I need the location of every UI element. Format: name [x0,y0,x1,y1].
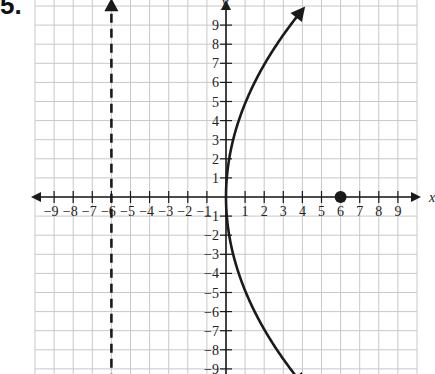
x-tick-label: −8 [63,204,78,219]
parabola-curve [226,15,299,374]
y-tick-label: 3 [212,133,219,148]
x-tick-label: 6 [337,204,344,219]
x-tick-label: −4 [139,204,154,219]
x-tick-label: −5 [120,204,135,219]
tick-labels: −9−8−7−6−5−4−3−2−1123456789987654321−1−2… [44,18,402,374]
y-tick-label: 6 [212,75,219,90]
y-tick-label: −1 [204,209,219,224]
y-tick-label: 8 [212,37,219,52]
focus-point [335,191,347,203]
x-tick-label: 4 [299,204,306,219]
x-tick-label: −9 [44,204,59,219]
x-tick-label: 7 [356,204,363,219]
x-tick-label: 1 [242,204,249,219]
x-tick-label: 2 [261,204,268,219]
y-tick-label: 1 [212,171,219,186]
y-tick-label: 9 [212,18,219,33]
x-tick-label: 8 [375,204,382,219]
y-tick-label: −5 [204,286,219,301]
x-tick-label: 5 [318,204,325,219]
x-tick-label: 9 [394,204,401,219]
x-tick-label: −3 [158,204,173,219]
y-axis-label: y [220,0,229,10]
y-tick-label: −6 [204,305,219,320]
x-tick-label: 3 [280,204,287,219]
y-tick-label: 4 [212,114,219,129]
y-tick-label: 7 [212,56,219,71]
coordinate-graph: −9−8−7−6−5−4−3−2−1123456789987654321−1−2… [0,0,435,374]
x-axis-arrow-right-icon [411,192,421,202]
x-tick-label: −7 [82,204,97,219]
parabola-arrow-up-icon [291,6,306,22]
y-tick-label: −4 [204,266,219,281]
y-tick-label: −3 [204,247,219,262]
y-tick-label: −8 [204,343,219,358]
x-tick-label: −2 [177,204,192,219]
y-tick-label: −7 [204,324,219,339]
x-axis-arrow-left-icon [31,192,41,202]
y-tick-label: −2 [204,228,219,243]
x-tick-label: −6 [101,204,116,219]
y-tick-label: 5 [212,95,219,110]
x-axis-label: x [428,190,435,205]
y-tick-label: 2 [212,152,219,167]
y-tick-label: −9 [204,362,219,374]
